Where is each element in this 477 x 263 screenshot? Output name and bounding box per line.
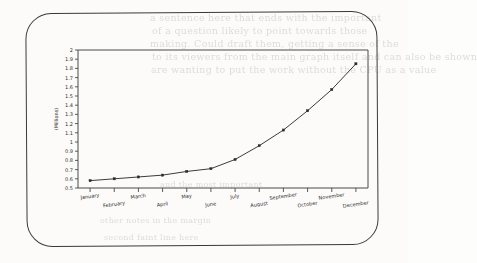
series-line [90,64,356,181]
data-point [113,178,115,180]
x-tick-label: July [229,192,240,200]
data-point [234,158,236,160]
y-axis-title: (Millions) [53,108,59,131]
data-point [137,176,139,178]
x-tick-label: June [204,200,217,208]
plot-frame [78,50,368,188]
y-tick-label: 1.4 [65,102,73,108]
data-point [161,174,163,176]
y-tick-label: 0.7 [65,167,73,173]
y-tick-label: 0.8 [65,157,73,163]
y-tick-label: 1.2 [65,121,73,127]
x-tick-label: August [250,200,268,209]
data-point [331,88,333,90]
y-tick-label: 2 [70,47,73,53]
y-tick-label: 1.7 [65,75,73,81]
y-tick-label: 1.9 [65,56,73,62]
x-tick-label: October [297,200,319,209]
x-tick-label: January [79,192,100,202]
y-tick-label: 1.5 [65,93,73,99]
data-point [89,180,91,182]
x-tick-label: February [103,200,126,210]
data-point [306,110,308,112]
data-point [210,168,212,170]
y-tick-label: 1.6 [65,84,73,90]
x-tick-label: December [342,199,369,209]
x-tick-label: November [318,191,346,201]
y-tick-label: 0.6 [65,176,73,182]
y-axis: 21.91.81.71.61.51.41.31.21.110.90.80.70.… [53,47,78,191]
y-tick-label: 1.1 [65,130,73,136]
x-tick-label: September [269,191,298,202]
x-tick-label: May [181,192,192,200]
y-tick-label: 1 [70,139,73,145]
y-tick-label: 1.8 [65,65,73,71]
x-tick-label: April [156,200,168,209]
x-tick-group: JanuaryFebruaryMarchAprilMayJuneJulyAugu… [79,188,370,210]
x-tick-label: March [130,192,146,200]
data-point [258,145,260,147]
y-tick-label: 0.9 [65,148,73,154]
y-tick-label: 1.3 [65,111,73,117]
y-tick-label: 0.5 [65,185,73,191]
data-point [282,129,284,131]
y-tick-group: 21.91.81.71.61.51.41.31.21.110.90.80.70.… [65,47,78,191]
data-point [355,63,357,65]
data-point [186,170,188,172]
